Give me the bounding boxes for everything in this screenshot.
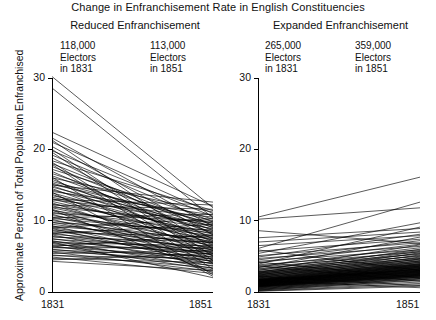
x-tick-label-start: 1831 xyxy=(41,298,64,310)
chart-figure: Change in Enfranchisement Rate in Englis… xyxy=(0,0,436,320)
y-tick-label: 20 xyxy=(226,142,251,154)
panel-expanded xyxy=(254,78,420,292)
y-tick-label: 0 xyxy=(226,285,251,297)
y-tick-label: 30 xyxy=(226,71,251,83)
data-line xyxy=(258,229,420,238)
data-line xyxy=(258,208,420,219)
y-tick-label: 10 xyxy=(20,214,45,226)
x-tick-label-end: 1851 xyxy=(189,298,212,310)
panel-reduced xyxy=(48,77,213,292)
y-tick-label: 0 xyxy=(20,285,45,297)
data-line xyxy=(258,177,420,217)
x-tick-label-end: 1851 xyxy=(396,298,419,310)
y-tick-label: 20 xyxy=(20,142,45,154)
data-line xyxy=(52,77,213,208)
y-tick-label: 10 xyxy=(226,214,251,226)
y-tick-label: 30 xyxy=(20,71,45,83)
data-line xyxy=(52,199,213,205)
x-tick-label-start: 1831 xyxy=(247,298,270,310)
plot-canvas xyxy=(0,0,436,320)
